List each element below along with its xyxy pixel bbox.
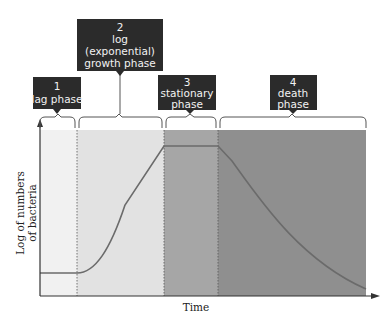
growth-curve-diagram: 1 lag phase 2 log (exponential) growth p… [0, 0, 390, 322]
log-phase-band [77, 130, 164, 296]
phase-braces [40, 114, 366, 128]
phase-label-log: 2 log (exponential) growth phase [77, 19, 163, 76]
phase-number-1: 1 [54, 80, 61, 92]
phase-label-death: 4 death phase [270, 75, 317, 114]
death-phase-band [218, 130, 366, 296]
x-axis-arrow-icon [371, 293, 380, 299]
phase-number-2: 2 [117, 21, 124, 33]
svg-text:of bacteria: of bacteria [26, 184, 38, 241]
lag-phase-band [40, 130, 77, 296]
phase-label-stationary: 3 stationary phase [158, 75, 216, 114]
phase-name-death-2: phase [277, 98, 309, 110]
phase-name-exponential: (exponential) [85, 45, 155, 57]
phase-name-log: log [112, 33, 128, 45]
phase-label-lag: 1 lag phase [31, 77, 82, 114]
y-axis-title: Log of numbers of bacteria [14, 171, 38, 255]
stationary-phase-band [164, 130, 218, 296]
phase-name-lag: lag phase [31, 93, 82, 105]
phase-name-growth: growth phase [84, 57, 156, 69]
x-axis-title: Time [183, 301, 210, 313]
svg-text:Log of numbers: Log of numbers [14, 171, 26, 255]
phase-name-stationary-2: phase [171, 98, 203, 110]
